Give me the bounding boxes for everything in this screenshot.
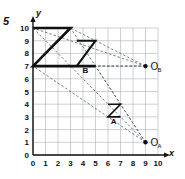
dashed-projection-ray: [33, 28, 146, 66]
y-tick-label: 6: [25, 75, 30, 84]
x-tick-label: 10: [154, 159, 163, 168]
y-tick-label: 3: [25, 113, 30, 122]
dashed-projection-ray: [33, 28, 146, 142]
x-tick-label: 8: [131, 159, 136, 168]
x-axis-label: x: [168, 148, 175, 158]
y-tick-label: 7: [25, 62, 30, 71]
shape-label-B: B: [83, 66, 89, 75]
x-tick-label: 3: [68, 159, 73, 168]
x-tick-label: 7: [118, 159, 123, 168]
coordinate-plane: xy012345678910012345678910BAOAOB: [0, 0, 185, 179]
center-point-O_B: [143, 64, 147, 68]
z-shape-large-z: [33, 28, 96, 66]
shape-label-A: A: [111, 117, 117, 126]
x-tick-label: 5: [93, 159, 98, 168]
x-tick-label: 6: [106, 159, 111, 168]
x-tick-label: 4: [81, 159, 86, 168]
y-tick-label: 1: [25, 138, 30, 147]
x-tick-label: 9: [143, 159, 148, 168]
y-tick-label: 9: [25, 37, 30, 46]
y-tick-label: 8: [25, 49, 30, 58]
center-subscript-O_B: B: [158, 67, 162, 73]
y-axis-arrow: [30, 16, 35, 22]
center-point-O_A: [143, 140, 147, 144]
y-tick-label: 0: [25, 151, 30, 160]
y-tick-label: 2: [25, 126, 30, 135]
center-subscript-O_A: A: [158, 143, 162, 149]
x-tick-label: 1: [43, 159, 48, 168]
y-axis-label: y: [35, 8, 42, 18]
y-tick-label: 5: [25, 88, 30, 97]
x-tick-label: 0: [31, 159, 36, 168]
y-tick-label: 4: [25, 100, 30, 109]
x-tick-label: 2: [56, 159, 61, 168]
y-tick-label: 10: [20, 24, 29, 33]
coordinate-geometry-figure: 5 xy012345678910012345678910BAOAOB: [0, 0, 185, 179]
